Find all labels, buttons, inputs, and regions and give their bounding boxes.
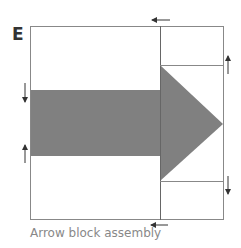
arrow-shaft (30, 90, 160, 156)
figure-caption: Arrow block assembly (30, 226, 161, 240)
arrow-block-diagram (0, 0, 241, 248)
panel-letter: E (12, 24, 24, 44)
arrow-head (160, 65, 223, 181)
